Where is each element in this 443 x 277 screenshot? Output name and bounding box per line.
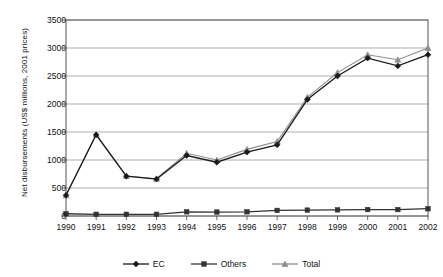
square-data-marker	[184, 210, 189, 215]
x-axis-tick-label: 1998	[298, 222, 317, 232]
y-axis-tick-label: 2000	[28, 100, 66, 109]
diamond-data-marker	[395, 63, 401, 69]
square-marker-icon	[305, 208, 310, 213]
x-axis-tick-label: 1995	[207, 222, 226, 232]
legend-label: EC	[153, 259, 165, 269]
x-axis-tick-label: 2002	[419, 222, 438, 232]
diamond-data-marker	[133, 261, 139, 267]
square-data-marker	[396, 207, 401, 212]
x-axis-tick-label: 2000	[358, 222, 377, 232]
chart-plot-area	[0, 0, 443, 277]
square-marker-icon	[191, 259, 217, 269]
square-data-marker	[365, 207, 370, 212]
square-data-marker	[94, 212, 99, 217]
square-data-marker	[201, 262, 206, 267]
y-axis-tick-label: 3500	[28, 16, 66, 25]
y-axis-tick-label: 1000	[28, 156, 66, 165]
square-marker-icon	[365, 207, 370, 212]
diamond-marker-icon	[133, 261, 139, 267]
x-axis-tick-label: 2001	[388, 222, 407, 232]
x-axis-tick-label: 1996	[238, 222, 257, 232]
chart-container: Net disbursements (US$ millions, 2001 pr…	[0, 0, 443, 277]
square-marker-icon	[94, 212, 99, 217]
diamond-marker-icon	[395, 63, 401, 69]
square-marker-icon	[426, 206, 431, 211]
x-axis-tick-label: 1997	[268, 222, 287, 232]
square-data-marker	[124, 212, 129, 217]
series-ec	[63, 52, 431, 198]
series-total	[63, 45, 431, 198]
y-axis-tick-label: 1500	[28, 128, 66, 137]
diamond-marker-icon	[123, 259, 149, 269]
square-marker-icon	[184, 210, 189, 215]
series-others	[64, 206, 431, 216]
legend-item-total[interactable]: Total	[272, 259, 320, 269]
square-data-marker	[275, 208, 280, 213]
square-data-marker	[305, 208, 310, 213]
square-data-marker	[245, 210, 250, 215]
square-data-marker	[335, 208, 340, 213]
x-axis-tick-label: 1991	[87, 222, 106, 232]
square-data-marker	[215, 210, 220, 215]
x-axis-tick-label: 1993	[147, 222, 166, 232]
triangle-marker-icon	[272, 259, 298, 269]
y-axis-tick-label: 500	[28, 184, 66, 193]
diamond-data-marker	[425, 52, 431, 58]
square-marker-icon	[245, 210, 250, 215]
y-axis-tick-label: 2500	[28, 72, 66, 81]
square-marker-icon	[154, 212, 159, 217]
plot-frame	[66, 20, 428, 216]
legend-item-others[interactable]: Others	[191, 259, 247, 269]
legend-item-ec[interactable]: EC	[123, 259, 165, 269]
series-line-total	[66, 48, 428, 195]
x-axis-tick-label: 1994	[177, 222, 196, 232]
diamond-marker-icon	[425, 52, 431, 58]
square-marker-icon	[275, 208, 280, 213]
square-marker-icon	[215, 210, 220, 215]
square-data-marker	[154, 212, 159, 217]
y-axis-tick-label: 0	[28, 212, 66, 221]
square-marker-icon	[335, 208, 340, 213]
legend-label: Total	[302, 259, 320, 269]
y-axis-tick-labels: 0500100015002000250030003500	[22, 0, 66, 240]
chart-legend: ECOthersTotal	[0, 259, 443, 269]
square-marker-icon	[124, 212, 129, 217]
x-axis-tick-label: 1990	[57, 222, 76, 232]
square-data-marker	[426, 206, 431, 211]
square-marker-icon	[201, 262, 206, 267]
x-axis-tick-label: 1999	[328, 222, 347, 232]
legend-label: Others	[221, 259, 247, 269]
x-axis-tick-label: 1992	[117, 222, 136, 232]
y-axis-tick-label: 3000	[28, 44, 66, 53]
square-marker-icon	[396, 207, 401, 212]
